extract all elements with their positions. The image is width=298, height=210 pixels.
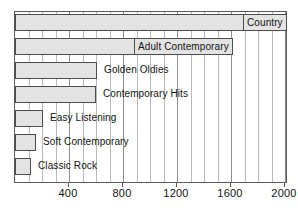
bar-label: Adult Contemporary (134, 38, 233, 55)
bar-label: Soft Contemporary (40, 134, 132, 151)
bar-row: Easy Listening (15, 110, 288, 127)
bar[interactable] (15, 62, 97, 79)
bar-label: Country (243, 14, 287, 31)
bar[interactable] (15, 110, 43, 127)
bar-row: Classic Rock (15, 158, 288, 175)
bar-label: Classic Rock (35, 158, 100, 175)
bar[interactable] (15, 158, 31, 175)
bar-row: Soft Contemporary (15, 134, 288, 151)
x-tick-label: 400 (59, 187, 78, 199)
bar[interactable] (15, 134, 36, 151)
bar-label: Golden Oldies (101, 62, 172, 79)
x-tick-label: 2000 (271, 187, 296, 199)
x-tick-label: 1200 (163, 187, 188, 199)
bar-label: Easy Listening (47, 110, 119, 127)
bars-layer: CountryAdult ContemporaryGolden OldiesCo… (15, 12, 286, 182)
bar-chart: CountryAdult ContemporaryGolden OldiesCo… (0, 0, 298, 210)
bar-row: Country (15, 14, 288, 31)
plot-area: CountryAdult ContemporaryGolden OldiesCo… (14, 11, 287, 183)
bar-row: Contemporary Hits (15, 86, 288, 103)
bar-row: Golden Oldies (15, 62, 288, 79)
x-axis-tick-labels: 400800120016002000 (14, 187, 287, 203)
bar[interactable] (15, 86, 96, 103)
x-tick-label: 1600 (217, 187, 242, 199)
bar-label: Contemporary Hits (100, 86, 191, 103)
x-tick-label: 800 (113, 187, 132, 199)
bar-row: Adult Contemporary (15, 38, 288, 55)
